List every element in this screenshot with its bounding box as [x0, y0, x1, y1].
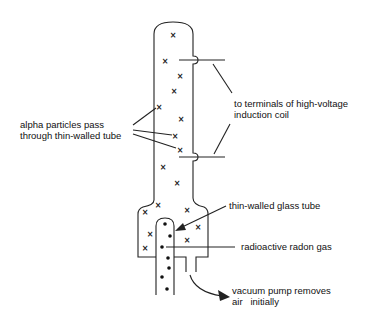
apparatus-diagram: × × × × × × × × × × × × × × × × × — [0, 0, 384, 322]
svg-text:×: × — [162, 57, 169, 66]
svg-text:×: × — [142, 208, 149, 217]
svg-text:×: × — [195, 223, 202, 232]
svg-text:×: × — [178, 115, 185, 124]
svg-text:×: × — [172, 132, 179, 141]
svg-text:×: × — [170, 31, 177, 40]
svg-text:×: × — [155, 201, 162, 210]
svg-text:×: × — [177, 72, 184, 81]
label-glass-tube: thin-walled glass tube — [229, 200, 320, 211]
svg-text:×: × — [147, 230, 154, 239]
svg-text:×: × — [174, 179, 181, 188]
svg-text:×: × — [160, 163, 167, 172]
svg-text:×: × — [171, 87, 178, 96]
svg-text:×: × — [142, 244, 149, 253]
label-terminals: to terminals of high-voltage induction c… — [234, 98, 348, 120]
pump-outlet — [174, 257, 186, 272]
svg-text:×: × — [184, 236, 191, 245]
label-alpha-particles: alpha particles pass through thin-walled… — [20, 119, 121, 141]
label-radon-gas: radioactive radon gas — [241, 241, 332, 252]
radon-atoms — [160, 222, 172, 291]
arrow-head-glass-tube — [175, 223, 186, 231]
svg-text:×: × — [156, 103, 163, 112]
label-vacuum-pump: vacuum pump removes air initially — [232, 285, 331, 307]
arrow-head-pump — [218, 290, 230, 301]
svg-text:×: × — [177, 146, 184, 155]
svg-text:×: × — [184, 206, 191, 215]
inner-glass-tube — [156, 218, 174, 295]
